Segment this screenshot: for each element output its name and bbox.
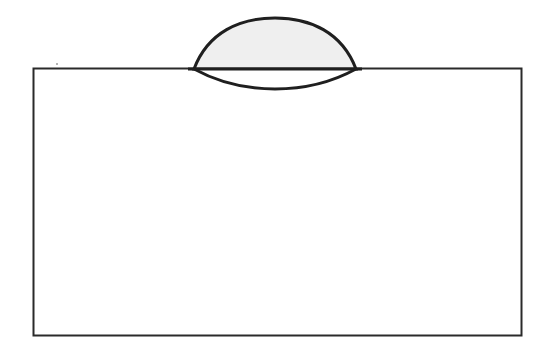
speck-mark: [56, 63, 58, 65]
block-rectangle: [34, 69, 522, 336]
upper-cap: [194, 18, 356, 69]
diagram-canvas: [0, 0, 553, 343]
